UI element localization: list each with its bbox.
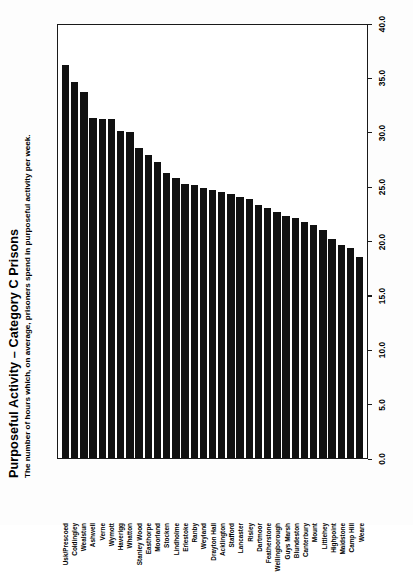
axis-tick-label: 35.0	[377, 70, 387, 86]
bar	[273, 212, 280, 458]
category-label-cell: Lindholme	[172, 461, 179, 525]
axis-tick-mark	[368, 459, 372, 460]
category-label-cell: Ranby	[190, 461, 197, 525]
page-title-wrapper: Purposeful Activity – Category C Prisons	[8, 229, 21, 478]
category-label: Lindholme	[172, 523, 179, 555]
category-label-cell: Wealstun	[79, 461, 86, 525]
category-label-cell: Verne	[98, 461, 105, 525]
category-label-cell: Ashwell	[89, 461, 96, 525]
category-label: Canterbury	[302, 523, 309, 557]
category-label: Drayton Hall	[209, 523, 216, 561]
category-label: Whatton	[126, 523, 133, 549]
category-label: Ashwell	[89, 523, 96, 547]
axis-tick-mark	[368, 404, 372, 405]
page-title: Purposeful Activity – Category C Prisons	[8, 229, 21, 478]
axis-tick-label: 25.0	[377, 179, 387, 195]
axis-tick-mark	[368, 295, 372, 296]
axis-tick-label: 10.0	[377, 342, 387, 358]
category-label: Stafford	[228, 523, 235, 548]
category-label: Maidstone	[339, 523, 346, 555]
axis-tick-label: 20.0	[377, 233, 387, 249]
category-label: Weare	[357, 523, 364, 542]
bar	[181, 184, 188, 458]
category-label-cell: Mount	[311, 461, 318, 525]
category-label: Erlestoke	[181, 523, 188, 552]
category-label: Weyland	[200, 523, 207, 549]
category-label-cell: Stocken	[163, 461, 170, 525]
axis-tick-label: 0.0	[377, 453, 387, 465]
category-label: Mount	[311, 523, 318, 542]
bar	[71, 82, 78, 458]
bar	[301, 222, 308, 458]
bar	[163, 173, 170, 458]
axis-tick-mark	[368, 350, 372, 351]
category-label-cell: Wymott	[107, 461, 114, 525]
category-label: Littlehey	[320, 523, 327, 549]
category-label-cell: Guys Marsh	[283, 461, 290, 525]
bar	[255, 205, 262, 458]
axis-tick-label: 5.0	[377, 399, 387, 411]
category-label: Blundeston	[292, 523, 299, 558]
category-label-cell: Maidstone	[338, 461, 345, 525]
category-label: Guys Marsh	[283, 523, 290, 560]
bar	[172, 178, 179, 458]
category-label-cell: Drayton Hall	[209, 461, 216, 525]
category-label: Dartmoor	[255, 523, 262, 552]
category-label: Usk/Prescoed	[61, 523, 68, 565]
bar	[99, 119, 106, 458]
category-label-cell: Weare	[357, 461, 364, 525]
page-subtitle: The number of hours which, on average, p…	[24, 134, 32, 478]
bar	[191, 185, 198, 458]
category-label: Stocken	[163, 523, 170, 548]
bar	[338, 245, 345, 458]
category-label-cell: Highpoint	[329, 461, 336, 525]
category-label: Verne	[98, 523, 105, 540]
category-label-cell: Lancaster	[237, 461, 244, 525]
category-label-cell: Moorland	[153, 461, 160, 525]
category-label: Featherstone	[265, 523, 272, 563]
bar-series	[58, 25, 367, 458]
category-label-cell: Weyland	[200, 461, 207, 525]
category-label-cell: Usk/Prescoed	[61, 461, 68, 525]
bar	[292, 218, 299, 458]
bar	[264, 208, 271, 458]
category-axis: Usk/PrescoedColdingleyWealstunAshwellVer…	[57, 461, 368, 525]
category-label-cell: Acklington	[218, 461, 225, 525]
axis-tick-label: 30.0	[377, 125, 387, 141]
category-label: Coldingley	[70, 523, 77, 556]
value-axis: 0.05.010.015.020.025.030.035.040.0	[368, 24, 413, 459]
category-label-cell: Risley	[246, 461, 253, 525]
axis-tick-mark	[368, 187, 372, 188]
category-label-cell: Wellingborough	[274, 461, 281, 525]
category-label: Haverigg	[117, 523, 124, 550]
bar	[236, 197, 243, 458]
category-label: Easthorpe	[144, 523, 151, 554]
plot-area	[57, 24, 368, 459]
category-label-cell: Dartmoor	[255, 461, 262, 525]
bar	[126, 132, 133, 458]
category-label: Wymott	[107, 523, 114, 546]
bar	[154, 162, 161, 458]
bar	[218, 192, 225, 458]
bar	[282, 216, 289, 458]
category-label: Stanley Wood	[135, 523, 142, 565]
category-label: Wellingborough	[274, 523, 281, 572]
bar	[356, 257, 363, 458]
category-label: Lancaster	[237, 523, 244, 553]
axis-tick-mark	[368, 24, 372, 25]
bar	[62, 65, 69, 458]
category-label-cell: Littlehey	[320, 461, 327, 525]
bar	[89, 118, 96, 458]
category-label-cell: Camp Hill	[348, 461, 355, 525]
category-label: Camp Hill	[348, 523, 355, 552]
category-label-cell: Erlestoke	[181, 461, 188, 525]
category-label: Wealstun	[80, 523, 87, 551]
heading-block: Purposeful Activity – Category C Prisons…	[0, 0, 46, 525]
category-label: Ranby	[191, 523, 198, 543]
bar	[319, 230, 326, 458]
axis-tick-label: 15.0	[377, 288, 387, 304]
axis-tick-label: 40.0	[377, 16, 387, 32]
bar	[347, 248, 354, 458]
bar	[209, 190, 216, 458]
bar	[80, 92, 87, 458]
